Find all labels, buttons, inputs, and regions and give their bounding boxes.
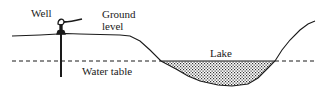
lake-water xyxy=(161,61,275,86)
well-label: Well xyxy=(31,8,52,19)
well-pump-icon xyxy=(57,19,82,34)
lake-label: Lake xyxy=(210,48,232,59)
water-table-label: Water table xyxy=(82,66,132,77)
groundwater-diagram: Well Ground level Lake Water table xyxy=(0,0,325,91)
ground-level-label-line2: level xyxy=(102,21,123,32)
ground-level-label-line1: Ground xyxy=(102,9,136,20)
